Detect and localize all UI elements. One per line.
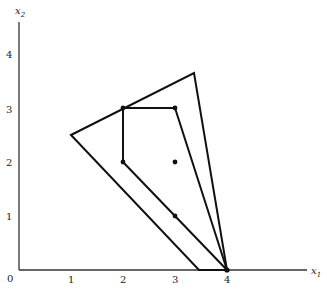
point-3-3 (173, 106, 178, 111)
origin-label: 0 (7, 273, 13, 284)
point-4-0 (224, 267, 229, 272)
outer-polygon (71, 73, 227, 270)
y-tick-3: 3 (6, 104, 12, 115)
y-tick-4: 4 (6, 49, 12, 60)
x-axis-label: x1 (311, 265, 321, 279)
point-2-2 (121, 160, 126, 165)
point-3-1 (173, 214, 178, 219)
y-axis-label: x2 (15, 5, 26, 19)
x-tick-4: 4 (224, 274, 230, 285)
x-tick-1: 1 (68, 274, 74, 285)
y-tick-2: 2 (6, 157, 12, 168)
point-2-3 (121, 106, 126, 111)
x-tick-3: 3 (172, 274, 178, 285)
x-tick-2: 2 (120, 274, 126, 285)
y-tick-1: 1 (6, 211, 12, 222)
point-3-2 (173, 160, 178, 165)
diagram-canvas: x2 x1 0 1 2 3 4 1 2 3 4 (0, 0, 327, 299)
